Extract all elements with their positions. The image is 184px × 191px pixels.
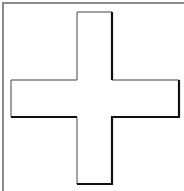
- plus-fill: [11, 12, 179, 184]
- plus-icon: [0, 0, 184, 191]
